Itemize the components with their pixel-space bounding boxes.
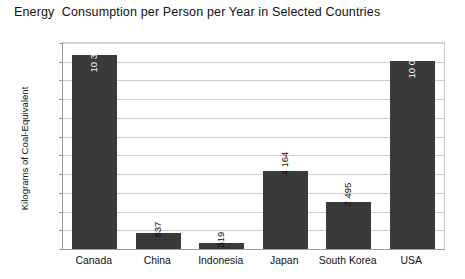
y-axis-tick-mark [59, 99, 63, 100]
gridline [63, 62, 444, 63]
bar-value-label: 10 337 [90, 44, 100, 73]
bar-value-label: 837 [153, 222, 163, 238]
gridline [63, 43, 444, 44]
y-axis-tick-mark [59, 193, 63, 194]
y-axis-tick-mark [59, 249, 63, 250]
gridline [63, 230, 444, 231]
y-axis-tick-mark [59, 62, 63, 63]
x-axis-tick-label: Canada [62, 255, 126, 266]
bar-value-label: 319 [217, 232, 227, 248]
gridline [63, 99, 444, 100]
gridline [63, 212, 444, 213]
y-axis-tick-mark [59, 174, 63, 175]
gridline [63, 174, 444, 175]
y-axis-tick-mark [59, 155, 63, 156]
x-axis-tick-label: South Korea [316, 255, 380, 266]
bar-value-label: 4 164 [280, 152, 290, 176]
bar[interactable] [72, 55, 117, 249]
bar[interactable] [263, 171, 308, 249]
bar[interactable] [326, 202, 371, 249]
plot-area: 10 3378373194 1642 49510 034 [62, 42, 445, 250]
x-axis-tick-label: USA [380, 255, 444, 266]
gridline [63, 193, 444, 194]
chart-title: Energy Consumption per Person per Year i… [14, 5, 380, 19]
y-axis-tick-mark [59, 43, 63, 44]
bar-value-label: 10 034 [407, 49, 417, 78]
y-axis-tick-mark [59, 80, 63, 81]
gridline [63, 155, 444, 156]
y-axis-tick-mark [59, 137, 63, 138]
bar-value-label: 2 495 [344, 183, 354, 207]
gridline [63, 137, 444, 138]
gridline [63, 80, 444, 81]
gridline [63, 118, 444, 119]
x-axis-tick-label: China [126, 255, 190, 266]
x-axis-tick-label: Japan [253, 255, 317, 266]
y-axis-tick-mark [59, 212, 63, 213]
bar[interactable] [390, 61, 435, 249]
y-axis-tick-mark [59, 230, 63, 231]
x-axis-tick-label: Indonesia [189, 255, 253, 266]
bar-chart: Energy Consumption per Person per Year i… [0, 0, 465, 279]
y-axis-tick-mark [59, 118, 63, 119]
y-axis-title: Kilograms of Coal-Equivalent [19, 54, 30, 244]
